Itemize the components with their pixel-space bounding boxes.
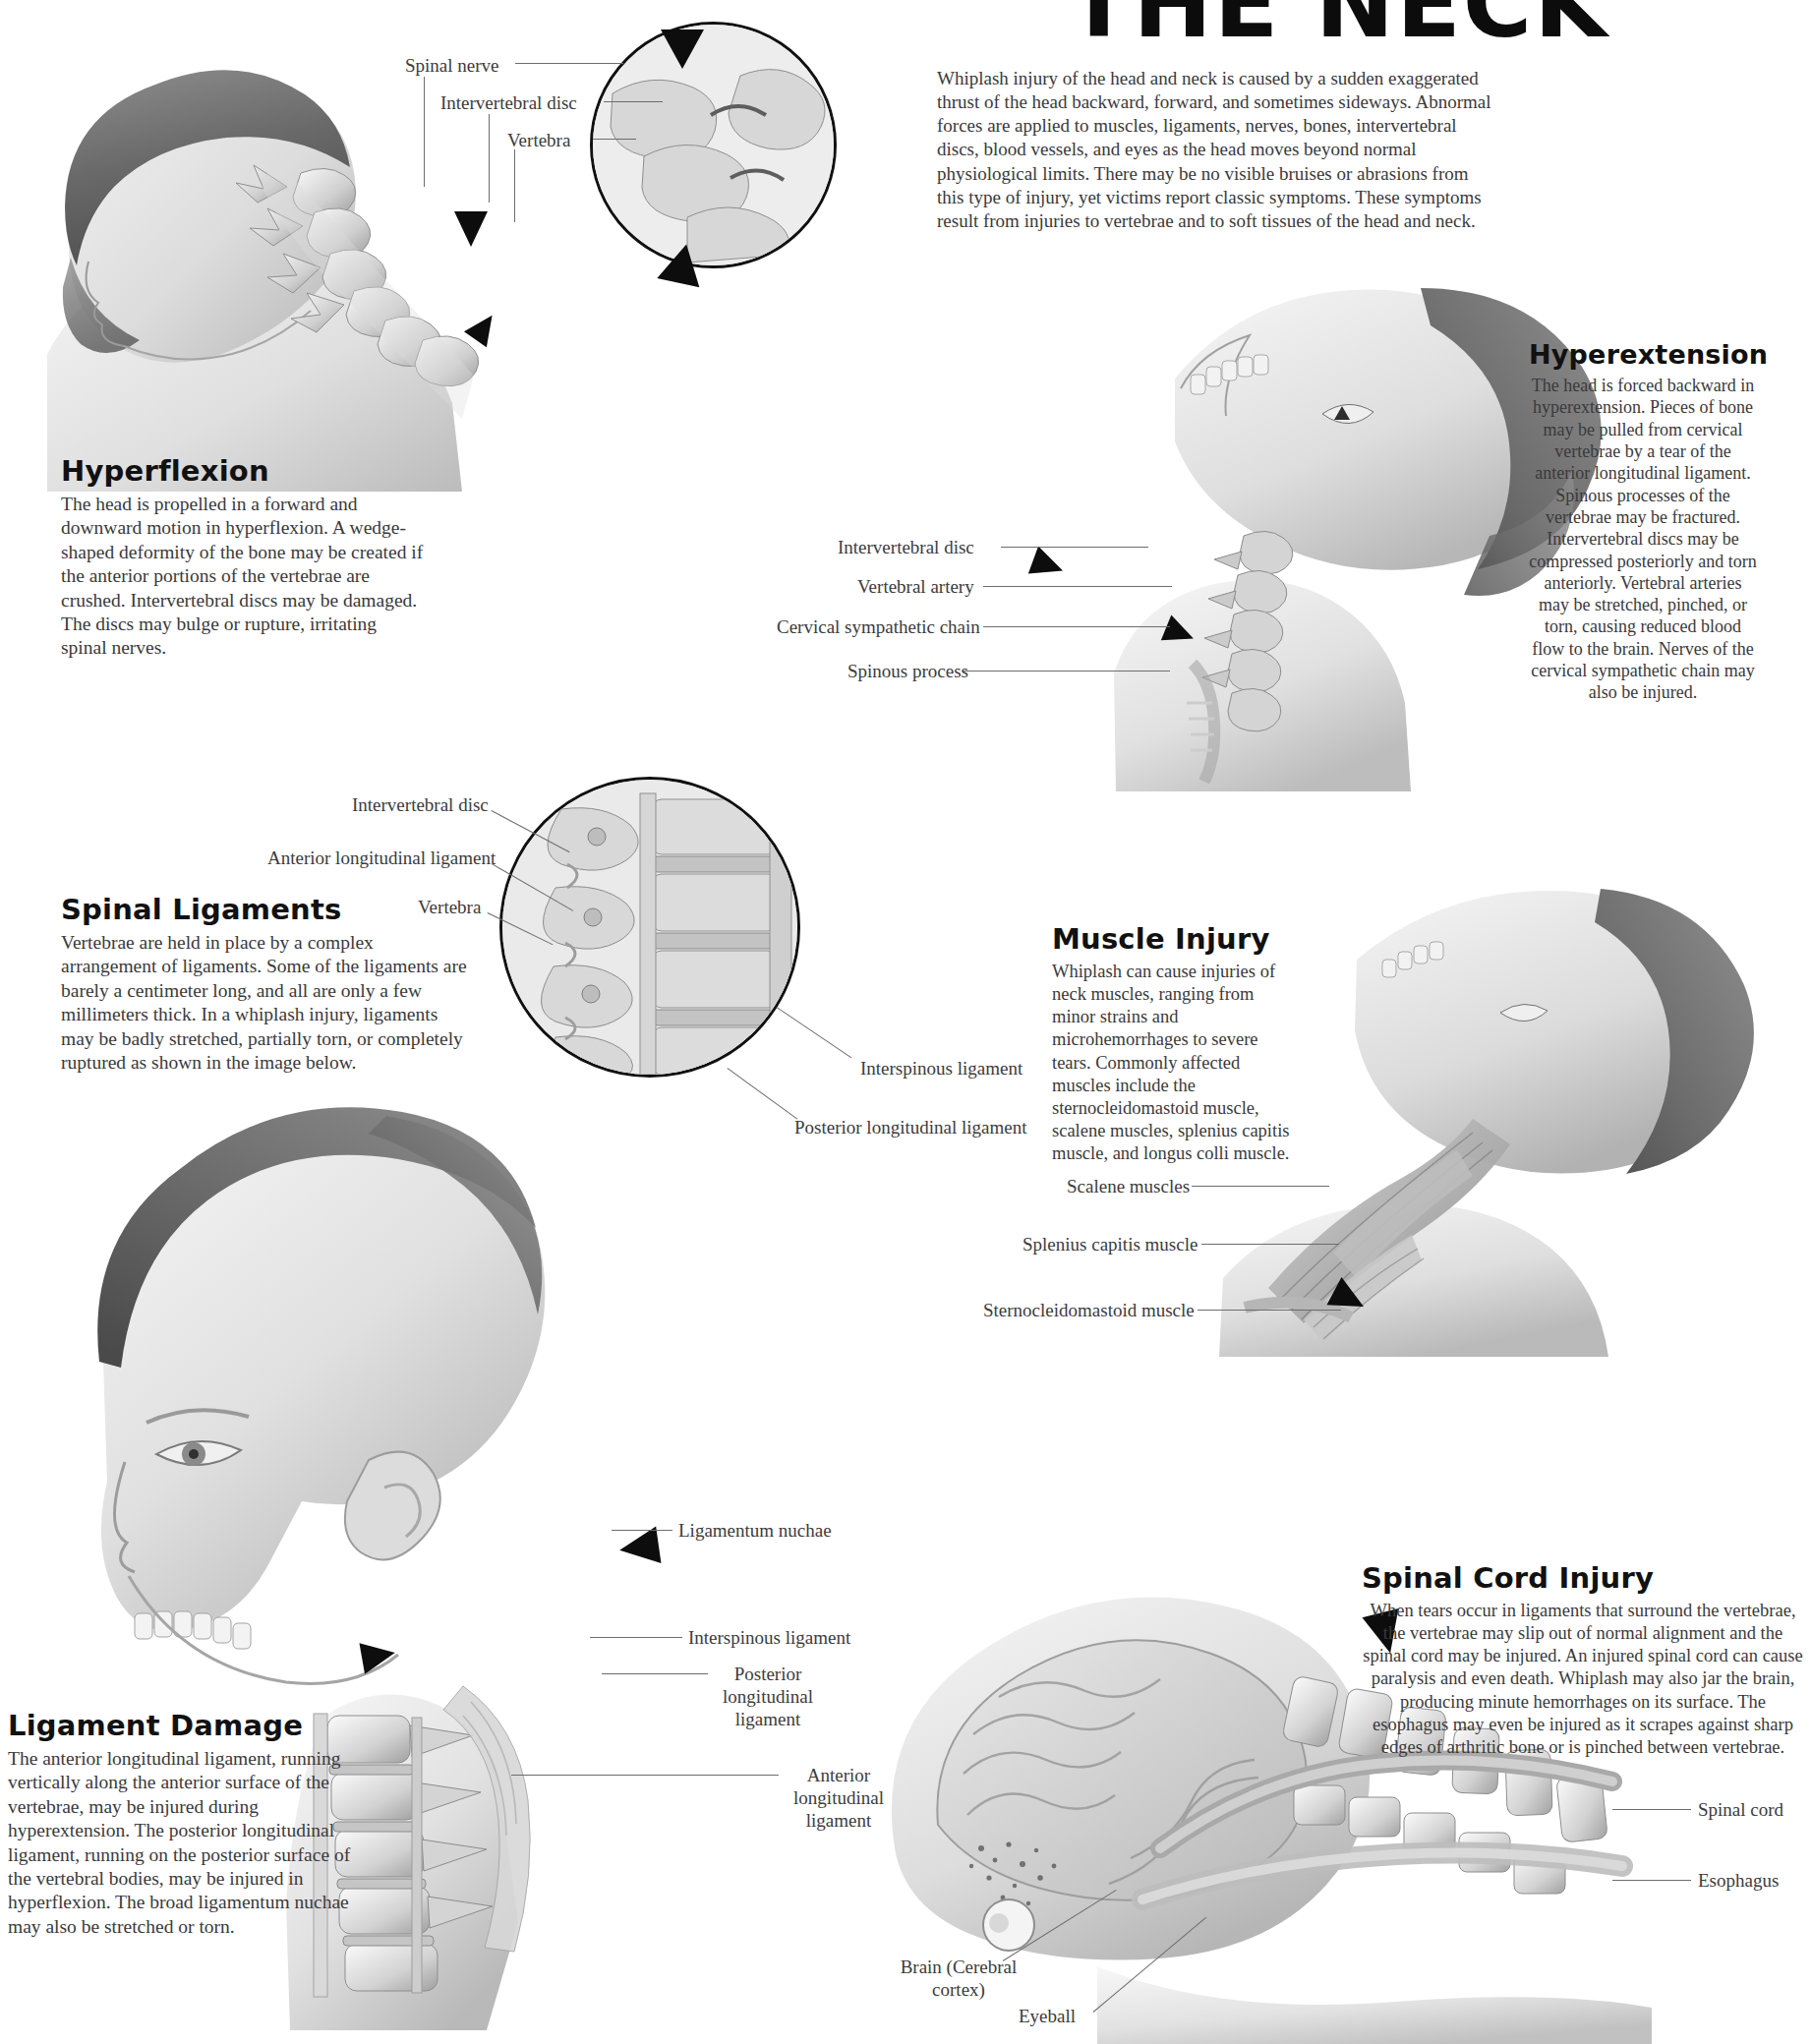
impact-arrow-spine-lower	[464, 308, 503, 348]
ligament-damage-heading: Ligament Damage	[8, 1709, 362, 1742]
hyperextension-arrow-upper	[1028, 546, 1068, 584]
callout-esophagus: Esophagus	[1698, 1870, 1779, 1893]
callout-spinous-process: Spinous process	[847, 661, 968, 683]
hyperflexion-text-block: Hyperflexion The head is propelled in a …	[61, 454, 425, 661]
muscle-injury-body: Whiplash can cause injuries of neck musc…	[1052, 961, 1290, 1165]
spinal-cord-injury-body: When tears occur in ligaments that surro…	[1362, 1600, 1804, 1759]
callout-ligamentum-nuchae: Ligamentum nuchae	[678, 1520, 832, 1543]
ligament-damage-arrow-anterior	[359, 1637, 397, 1673]
intro-paragraph: Whiplash injury of the head and neck is …	[937, 67, 1492, 233]
leader-esophagus	[1612, 1880, 1691, 1881]
callout-splenius-capitis-muscle: Splenius capitis muscle	[1022, 1234, 1198, 1256]
callout-spinal-cord: Spinal cord	[1698, 1799, 1783, 1822]
leader-posterior-longitudinal-ligament-lig	[727, 1068, 797, 1120]
leader-ligamentum-nuchae	[612, 1530, 672, 1531]
spinal-ligaments-text-block: Spinal Ligaments Vertebrae are held in p…	[61, 893, 474, 1075]
callout-intervertebral-disc-lig: Intervertebral disc	[352, 794, 489, 817]
leader-posterior-longitudinal-ligament-ld	[602, 1673, 708, 1674]
muscle-injury-heading: Muscle Injury	[1052, 922, 1290, 956]
spinal-ligaments-detail-inset	[499, 777, 800, 1078]
hyperextension-arrow-lower	[1161, 614, 1198, 651]
callout-vertebra-hf: Vertebra	[507, 130, 570, 152]
callout-spinal-nerve: Spinal nerve	[405, 55, 499, 78]
leader-interspinous-ligament-ld	[590, 1637, 682, 1638]
callout-posterior-longitudinal-ligament-lig: Posterior longitudinal ligament	[794, 1117, 1026, 1139]
leader-spinal-cord	[1612, 1809, 1691, 1810]
callout-intervertebral-disc-hf: Intervertebral disc	[440, 92, 577, 115]
intro-paragraph-block: Whiplash injury of the head and neck is …	[937, 67, 1492, 233]
ligament-damage-body: The anterior longitudinal ligament, runn…	[8, 1747, 362, 1939]
spinal-cord-injury-text-block: Spinal Cord Injury When tears occur in l…	[1362, 1561, 1804, 1759]
ligament-damage-arrow-posterior	[617, 1526, 662, 1568]
callout-vertebral-artery: Vertebral artery	[857, 576, 974, 599]
hyperextension-text-block: Hyperextension The head is forced backwa…	[1529, 339, 1757, 704]
callout-cervical-sympathetic-chain: Cervical sympathetic chain	[777, 616, 980, 639]
impact-arrow-spine-upper	[454, 211, 488, 247]
leader-vertebra-hf	[593, 139, 636, 140]
callout-intervertebral-disc-he: Intervertebral disc	[838, 537, 974, 559]
leader-intervertebral-disc-hf-drop	[489, 114, 490, 203]
callout-interspinous-ligament-lig: Interspinous ligament	[860, 1058, 1022, 1080]
leader-vertebral-artery	[983, 586, 1172, 587]
leader-intervertebral-disc-he	[1001, 547, 1148, 548]
leader-splenius-capitis-muscle	[1201, 1244, 1339, 1245]
leader-eyeball	[1093, 1917, 1207, 2013]
callout-anterior-longitudinal-ligament-ld: Anterior longitudinal ligament	[787, 1765, 891, 1832]
ligament-damage-text-block: Ligament Damage The anterior longitudina…	[8, 1709, 362, 1939]
leader-scalene-muscles	[1192, 1186, 1329, 1187]
callout-posterior-longitudinal-ligament-ld: Posterior longitudinal ligament	[714, 1664, 822, 1730]
callout-scalene-muscles: Scalene muscles	[1067, 1176, 1190, 1198]
callout-anterior-longitudinal-ligament-lig: Anterior longitudinal ligament	[267, 847, 496, 870]
leader-sternocleidomastoid-muscle	[1198, 1310, 1341, 1311]
hyperextension-body: The head is forced backward in hyperexte…	[1529, 375, 1757, 704]
muscle-injury-text-block: Muscle Injury Whiplash can cause injurie…	[1052, 922, 1290, 1165]
leader-spinal-nerve	[515, 63, 623, 64]
muscle-injury-arrow	[1326, 1277, 1371, 1320]
leader-spinal-nerve-drop	[424, 77, 425, 187]
muscle-injury-illustration	[1209, 865, 1760, 1357]
leader-anterior-longitudinal-ligament-ld	[511, 1775, 779, 1776]
spinal-ligaments-heading: Spinal Ligaments	[61, 893, 474, 926]
leader-cervical-sympathetic-chain	[983, 626, 1170, 627]
callout-brain-cerebral-cortex: Brain (Cerebral cortex)	[885, 1956, 1032, 2002]
callout-sternocleidomastoid-muscle: Sternocleidomastoid muscle	[983, 1300, 1195, 1322]
hyperflexion-detail-inset	[590, 22, 837, 268]
whiplash-poster: THE NECK Whiplash injury of the head and…	[0, 0, 1811, 2044]
impact-arrow-inset-top	[661, 29, 704, 69]
callout-eyeball: Eyeball	[1019, 2006, 1076, 2028]
leader-intervertebral-disc-hf	[604, 101, 663, 102]
callout-interspinous-ligament-ld: Interspinous ligament	[688, 1627, 850, 1650]
impact-arrow-inset-bottom	[657, 240, 707, 287]
hyperflexion-body: The head is propelled in a forward and d…	[61, 493, 425, 661]
leader-spinous-process	[964, 671, 1170, 672]
spinal-cord-injury-heading: Spinal Cord Injury	[1362, 1561, 1804, 1595]
poster-title: THE NECK	[1067, 0, 1609, 51]
spinal-ligaments-body: Vertebrae are held in place by a complex…	[61, 931, 474, 1075]
leader-vertebra-hf-drop	[514, 149, 515, 222]
callout-vertebra-lig: Vertebra	[418, 897, 481, 919]
hyperextension-heading: Hyperextension	[1529, 339, 1757, 370]
leader-interspinous-ligament-lig	[776, 1007, 851, 1058]
leader-brain-cerebral-cortex	[1003, 1890, 1117, 1961]
hyperflexion-heading: Hyperflexion	[61, 454, 425, 488]
